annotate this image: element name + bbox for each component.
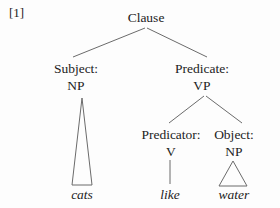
node-object-role: Object: [214,126,254,143]
node-clause: Clause [128,9,165,26]
node-clause-label: Clause [128,10,165,25]
node-object: Object: NP [214,126,254,160]
node-predicator: Predicator: V [141,126,200,160]
branch-vp-predicator [169,96,204,123]
branch-vp-object [206,96,242,123]
node-object-category: NP [214,143,254,160]
node-predicate-role: Predicate: [175,60,229,77]
branch-clause-subject [73,28,145,57]
object-np-triangle [219,161,247,186]
subject-np-triangle [72,98,92,185]
branch-clause-predicate [147,28,207,57]
node-predicator-role: Predicator: [141,126,200,143]
leaf-cats: cats [71,187,93,203]
syntax-tree-figure: [1] Clause Subject: NP Predicate: VP Pre… [0,0,280,208]
leaf-water: water [219,187,250,203]
node-predicator-category: V [141,143,200,160]
node-subject-category: NP [54,77,98,94]
node-predicate-category: VP [175,77,229,94]
node-subject-role: Subject: [54,60,98,77]
leaf-like: like [160,187,180,203]
node-predicate: Predicate: VP [175,60,229,94]
tree-branches [0,0,280,208]
node-subject: Subject: NP [54,60,98,94]
